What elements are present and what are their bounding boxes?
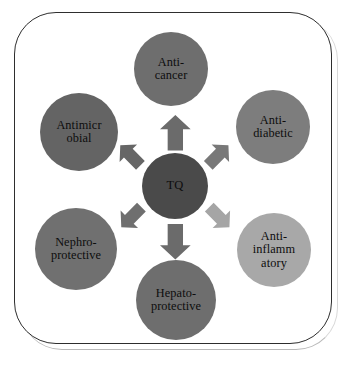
node-anti-inflammatory: Anti- inflamm atory bbox=[237, 213, 311, 287]
node-antimicrobial: Antimicr obial bbox=[40, 93, 118, 171]
node-hub-tq: TQ bbox=[142, 153, 208, 219]
node-antimicrobial-label: Antimicr obial bbox=[52, 119, 105, 146]
node-anti-diabetic: Anti- diabetic bbox=[236, 90, 310, 164]
node-hub-tq-label: TQ bbox=[163, 179, 188, 193]
node-hepato-protective-label: Hepato- protective bbox=[147, 287, 205, 314]
node-anti-inflammatory-label: Anti- inflamm atory bbox=[249, 230, 299, 270]
node-hepato-protective: Hepato- protective bbox=[136, 260, 216, 340]
node-nephro-protective-label: Nephro- protective bbox=[47, 236, 105, 263]
diagram-canvas: Anti- cancerAnti- diabeticAnti- inflamm … bbox=[0, 0, 349, 372]
figure-root: Anti- cancerAnti- diabeticAnti- inflamm … bbox=[0, 0, 349, 372]
node-anti-cancer: Anti- cancer bbox=[134, 32, 208, 106]
node-nephro-protective: Nephro- protective bbox=[35, 208, 117, 290]
node-anti-cancer-label: Anti- cancer bbox=[151, 56, 192, 83]
node-anti-diabetic-label: Anti- diabetic bbox=[249, 114, 297, 141]
